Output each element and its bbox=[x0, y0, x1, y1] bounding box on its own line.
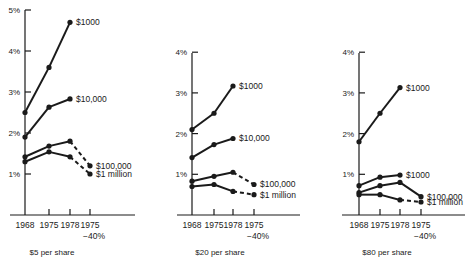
series-segment bbox=[49, 141, 70, 146]
x-tick-sublabel: −40% bbox=[414, 231, 436, 241]
y-tick-label: 5% bbox=[8, 6, 20, 15]
data-point bbox=[211, 182, 216, 187]
x-tick-label: 1968 bbox=[350, 220, 369, 230]
series-label: $1 million bbox=[427, 197, 463, 207]
series-segment bbox=[400, 200, 421, 202]
series-2: $1000 bbox=[356, 170, 430, 188]
x-tick-label: 1975 bbox=[412, 220, 431, 230]
series-label: $100,000 bbox=[260, 179, 296, 189]
data-point bbox=[251, 182, 256, 187]
data-point bbox=[418, 199, 423, 204]
series-segment bbox=[25, 152, 49, 162]
y-tick-label: 3% bbox=[342, 89, 354, 98]
y-tick-label: 2% bbox=[175, 130, 187, 139]
data-point bbox=[377, 183, 382, 188]
series-3: $100,000 bbox=[22, 139, 131, 171]
data-point bbox=[189, 179, 194, 184]
series-segment bbox=[233, 191, 254, 194]
x-tick-label: 1978 bbox=[224, 220, 243, 230]
data-point bbox=[397, 197, 402, 202]
data-point bbox=[22, 159, 27, 164]
series-label: $1 million bbox=[96, 169, 132, 179]
y-tick-label: 4% bbox=[342, 48, 354, 57]
data-point bbox=[377, 111, 382, 116]
series-segment bbox=[25, 67, 49, 112]
series-2: $10,000 bbox=[22, 94, 107, 140]
series-segment bbox=[49, 152, 70, 157]
data-point bbox=[67, 20, 72, 25]
series-segment bbox=[25, 107, 49, 137]
data-point bbox=[230, 136, 235, 141]
y-tick-label: 3% bbox=[8, 88, 20, 97]
data-point bbox=[67, 96, 72, 101]
chart-panel-3: 1%2%3%4%1968197519781975−40%$80 per shar… bbox=[342, 48, 465, 257]
data-point bbox=[46, 65, 51, 70]
series-segment bbox=[214, 138, 233, 144]
charts-canvas: 1%2%3%4%5%1968197519781975−40%$5 per sha… bbox=[0, 0, 473, 263]
data-point bbox=[189, 155, 194, 160]
series-segment bbox=[359, 113, 380, 141]
series-segment bbox=[380, 182, 400, 185]
series-3: $100,000 bbox=[189, 170, 295, 190]
y-tick-label: 4% bbox=[175, 48, 187, 57]
y-tick-label: 1% bbox=[175, 170, 187, 179]
series-segment bbox=[359, 186, 380, 193]
x-tick-label: 1975 bbox=[81, 220, 100, 230]
x-tick-label: 1975 bbox=[40, 220, 59, 230]
x-tick-label: 1968 bbox=[16, 220, 35, 230]
series-segment bbox=[70, 141, 90, 166]
y-tick-label: 4% bbox=[8, 47, 20, 56]
data-point bbox=[211, 111, 216, 116]
data-point bbox=[87, 171, 92, 176]
data-point bbox=[189, 127, 194, 132]
chart-figure: 1%2%3%4%5%1968197519781975−40%$5 per sha… bbox=[0, 0, 473, 263]
y-tick-label: 1% bbox=[8, 170, 20, 179]
series-label: $1 million bbox=[260, 190, 296, 200]
series-segment bbox=[214, 172, 233, 176]
data-point bbox=[87, 163, 92, 168]
series-segment bbox=[400, 182, 421, 196]
series-segment bbox=[380, 88, 400, 114]
data-point bbox=[46, 144, 51, 149]
y-tick-label: 2% bbox=[342, 130, 354, 139]
y-tick-label: 2% bbox=[8, 129, 20, 138]
y-tick-label: 3% bbox=[175, 89, 187, 98]
chart-caption: $20 per share bbox=[195, 248, 245, 257]
x-tick-sublabel: −40% bbox=[247, 231, 269, 241]
series-label: $10,000 bbox=[239, 133, 270, 143]
series-label: $1000 bbox=[76, 17, 100, 27]
x-tick-label: 1978 bbox=[61, 220, 80, 230]
chart-caption: $5 per share bbox=[30, 248, 75, 257]
data-point bbox=[46, 105, 51, 110]
data-point bbox=[356, 192, 361, 197]
series-segment bbox=[49, 99, 70, 107]
data-point bbox=[211, 174, 216, 179]
series-segment bbox=[359, 177, 380, 186]
x-tick-label: 1978 bbox=[391, 220, 410, 230]
data-point bbox=[377, 192, 382, 197]
chart-panel-2: 1%2%3%4%1968197519781975−40%$20 per shar… bbox=[175, 48, 300, 257]
data-point bbox=[211, 142, 216, 147]
series-2: $10,000 bbox=[189, 133, 270, 160]
data-point bbox=[356, 139, 361, 144]
series-segment bbox=[233, 172, 254, 184]
series-segment bbox=[214, 184, 233, 191]
data-point bbox=[230, 83, 235, 88]
series-segment bbox=[192, 184, 214, 186]
series-segment bbox=[214, 86, 233, 113]
data-point bbox=[397, 85, 402, 90]
series-label: $10,000 bbox=[76, 94, 107, 104]
series-segment bbox=[192, 145, 214, 158]
series-segment bbox=[70, 157, 90, 174]
data-point bbox=[67, 154, 72, 159]
data-point bbox=[67, 139, 72, 144]
data-point bbox=[22, 135, 27, 140]
chart-caption: $80 per share bbox=[362, 248, 412, 257]
y-tick-label: 1% bbox=[342, 170, 354, 179]
series-1: $1000 bbox=[356, 83, 430, 145]
series-segment bbox=[380, 195, 400, 200]
series-segment bbox=[25, 146, 49, 157]
series-segment bbox=[192, 113, 214, 129]
data-point bbox=[22, 154, 27, 159]
series-label: $1000 bbox=[406, 83, 430, 93]
